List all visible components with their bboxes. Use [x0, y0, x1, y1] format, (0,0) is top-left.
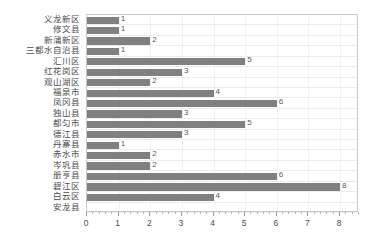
x-minor-tick: [333, 212, 334, 214]
bar-row[interactable]: 4: [87, 88, 359, 98]
x-tick: [339, 212, 340, 216]
x-minor-tick: [105, 212, 106, 214]
x-tick-label: 1: [108, 218, 128, 229]
bar-row[interactable]: 1: [87, 25, 359, 35]
bar[interactable]: [87, 90, 214, 97]
x-tick: [307, 212, 308, 216]
x-minor-tick: [282, 212, 283, 214]
x-tick-label: 0: [76, 218, 96, 229]
bar[interactable]: [87, 69, 182, 76]
x-tick-label: 2: [139, 218, 159, 229]
bar-row[interactable]: 2: [87, 78, 359, 88]
bar-row[interactable]: 5: [87, 57, 359, 67]
bar-row[interactable]: 2: [87, 150, 359, 160]
bar[interactable]: [87, 194, 214, 201]
bar-row[interactable]: 1: [87, 15, 359, 25]
bar[interactable]: [87, 183, 340, 190]
x-minor-tick: [130, 212, 131, 214]
x-tick-label: 7: [297, 218, 317, 229]
bar-value-label: 1: [119, 139, 125, 149]
bar[interactable]: [87, 37, 150, 44]
bar-chart: 义龙新区修文县新蒲新区三都水自治县汇川区红花岗区观山湖区福泉市凤冈县独山县都匀市…: [0, 0, 383, 246]
category-label: 新蒲新区: [0, 35, 83, 45]
bar[interactable]: [87, 131, 182, 138]
bar-row[interactable]: 2: [87, 161, 359, 171]
bar-row[interactable]: 3: [87, 67, 359, 77]
bar-row[interactable]: 3: [87, 109, 359, 119]
bar-row[interactable]: 1: [87, 46, 359, 56]
x-minor-tick: [288, 212, 289, 214]
category-label: 观山湖区: [0, 77, 83, 87]
bar-row[interactable]: 4: [87, 192, 359, 202]
bar-row[interactable]: 2: [87, 36, 359, 46]
bar-value-label: 5: [245, 55, 251, 65]
bar-value-label: 6: [277, 170, 283, 180]
x-tick: [86, 212, 87, 216]
category-label: 汇川区: [0, 56, 83, 66]
bar-row[interactable]: 8: [87, 182, 359, 192]
bar-row[interactable]: 5: [87, 119, 359, 129]
x-minor-tick: [269, 212, 270, 214]
bar[interactable]: [87, 152, 150, 159]
bar[interactable]: [87, 142, 119, 149]
bar-value-label: 1: [119, 14, 125, 24]
bar-row[interactable]: 3: [87, 130, 359, 140]
x-tick: [149, 212, 150, 216]
x-minor-tick: [124, 212, 125, 214]
x-tick: [244, 212, 245, 216]
bar-value-label: 2: [150, 35, 156, 45]
bar[interactable]: [87, 162, 150, 169]
x-tick-label: 6: [266, 218, 286, 229]
bar[interactable]: [87, 27, 119, 34]
x-minor-tick: [187, 212, 188, 214]
bar-row[interactable]: 6: [87, 98, 359, 108]
bar[interactable]: [87, 48, 119, 55]
x-minor-tick: [219, 212, 220, 214]
bar[interactable]: [87, 121, 245, 128]
bar[interactable]: [87, 100, 277, 107]
x-axis: 012345678: [86, 212, 358, 242]
x-minor-tick: [137, 212, 138, 214]
bar-value-label: 2: [150, 160, 156, 170]
x-minor-tick: [143, 212, 144, 214]
category-label: 三都水自治县: [0, 45, 83, 55]
bar[interactable]: [87, 173, 277, 180]
bar[interactable]: [87, 58, 245, 65]
bar-value-label: 4: [214, 87, 220, 97]
x-minor-tick: [175, 212, 176, 214]
bar-value-label: 3: [182, 128, 188, 138]
x-tick-label: 5: [234, 218, 254, 229]
x-tick: [181, 212, 182, 216]
category-label: 白云区: [0, 191, 83, 201]
category-label: 都匀市: [0, 118, 83, 128]
bar[interactable]: [87, 79, 150, 86]
x-tick-label: 3: [171, 218, 191, 229]
bar-value-label: 3: [182, 108, 188, 118]
category-label: 义龙新区: [0, 14, 83, 24]
x-minor-tick: [231, 212, 232, 214]
x-minor-tick: [206, 212, 207, 214]
bar-row[interactable]: 6: [87, 171, 359, 181]
x-minor-tick: [111, 212, 112, 214]
category-label: 独山县: [0, 108, 83, 118]
x-minor-tick: [200, 212, 201, 214]
x-tick: [213, 212, 214, 216]
category-label: 红花岗区: [0, 66, 83, 76]
category-axis-labels: 义龙新区修文县新蒲新区三都水自治县汇川区红花岗区观山湖区福泉市凤冈县独山县都匀市…: [0, 14, 83, 212]
plot-area: 112153246353122684: [86, 14, 358, 212]
x-minor-tick: [92, 212, 93, 214]
category-label: 册亨县: [0, 170, 83, 180]
category-label: 赤水市: [0, 149, 83, 159]
x-minor-tick: [358, 212, 359, 214]
x-minor-tick: [263, 212, 264, 214]
bar-value-label: 1: [119, 45, 125, 55]
x-minor-tick: [99, 212, 100, 214]
category-label: 德江县: [0, 129, 83, 139]
bar-value-label: 4: [214, 191, 220, 201]
bar-row[interactable]: 1: [87, 140, 359, 150]
category-label: 福泉市: [0, 87, 83, 97]
x-tick-label: 4: [203, 218, 223, 229]
bar[interactable]: [87, 17, 119, 24]
x-minor-tick: [162, 212, 163, 214]
bar[interactable]: [87, 110, 182, 117]
